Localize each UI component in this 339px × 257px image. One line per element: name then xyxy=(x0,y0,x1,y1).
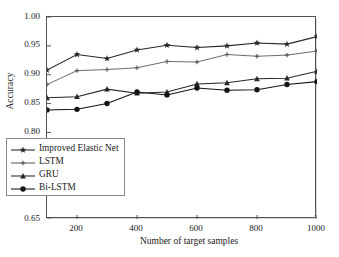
data-point-plus xyxy=(225,52,229,56)
legend-label: GRU xyxy=(36,169,59,179)
x-tick-label: 200 xyxy=(56,224,96,233)
accuracy-line-chart: 0.650.700.750.800.850.900.951.00 2004006… xyxy=(0,0,339,257)
data-point-star xyxy=(314,33,317,39)
legend-label: Improved Elastic Net xyxy=(36,143,119,153)
data-point-star xyxy=(254,39,261,45)
data-point-plus xyxy=(285,53,289,57)
data-point-circle xyxy=(194,85,199,90)
series-bi-lstm xyxy=(47,79,317,113)
x-tick-label: 1000 xyxy=(296,224,336,233)
data-point-plus xyxy=(21,160,25,164)
x-tick-label: 400 xyxy=(116,224,156,233)
legend-label: Bi-LSTM xyxy=(36,182,76,192)
data-point-plus xyxy=(165,59,169,63)
data-point-plus xyxy=(105,67,109,71)
data-point-triangle xyxy=(104,86,110,92)
data-point-triangle xyxy=(314,68,317,74)
data-point-circle xyxy=(254,87,259,92)
data-point-star xyxy=(224,42,231,48)
data-point-circle xyxy=(134,89,139,94)
data-point-star xyxy=(164,42,171,48)
data-point-star xyxy=(20,146,27,152)
x-axis-title: Number of target samples xyxy=(44,236,334,246)
data-point-plus xyxy=(135,66,139,70)
legend-label: LSTM xyxy=(36,156,64,166)
data-point-star xyxy=(134,46,141,52)
x-tick-label: 800 xyxy=(236,224,276,233)
data-point-circle xyxy=(20,186,25,191)
series-improved-elastic-net xyxy=(47,33,317,73)
data-point-plus xyxy=(255,54,259,58)
data-point-plus xyxy=(315,49,317,53)
legend-item: Bi-LSTM xyxy=(10,180,119,193)
chart-legend: Improved Elastic NetLSTMGRUBi-LSTM xyxy=(6,138,125,196)
data-point-plus xyxy=(47,82,49,86)
data-point-circle xyxy=(224,88,229,93)
data-point-circle xyxy=(314,79,317,84)
legend-item: LSTM xyxy=(10,154,119,167)
data-point-circle xyxy=(104,101,109,106)
data-point-circle xyxy=(47,107,50,112)
data-point-star xyxy=(194,44,201,50)
data-point-circle xyxy=(74,107,79,112)
data-point-star xyxy=(284,41,291,47)
x-tick-label: 600 xyxy=(176,224,216,233)
legend-marker-plus-icon xyxy=(10,155,36,167)
data-point-star xyxy=(74,51,81,57)
series-line xyxy=(47,71,317,98)
series-gru xyxy=(47,68,317,100)
series-line xyxy=(47,37,317,70)
data-point-plus xyxy=(195,60,199,64)
y-axis-title: Accuracy xyxy=(5,51,15,131)
legend-marker-circle-icon xyxy=(10,181,36,193)
legend-marker-triangle-icon xyxy=(10,168,36,180)
series-line xyxy=(47,82,317,110)
series-lstm xyxy=(47,49,317,87)
data-point-plus xyxy=(75,68,79,72)
legend-item: Improved Elastic Net xyxy=(10,141,119,154)
legend-marker-star-icon xyxy=(10,142,36,154)
data-point-star xyxy=(104,55,111,61)
data-point-star xyxy=(47,67,50,73)
data-point-circle xyxy=(284,82,289,87)
legend-item: GRU xyxy=(10,167,119,180)
data-point-circle xyxy=(164,92,169,97)
